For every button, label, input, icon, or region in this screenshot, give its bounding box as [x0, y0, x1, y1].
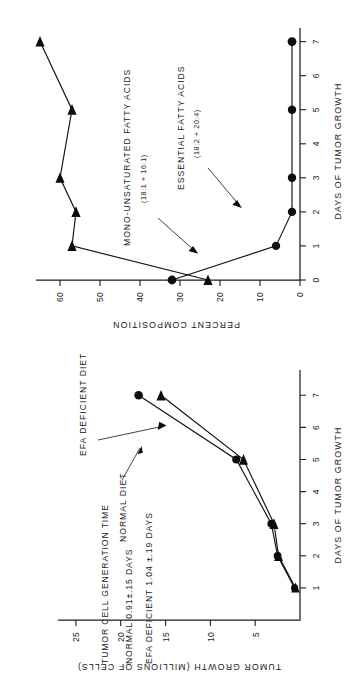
x-tick-6: 6 [311, 73, 321, 78]
y-tick-60: 60 [55, 292, 65, 302]
leader-essential [208, 168, 240, 206]
leader-arrow-normal-diet [138, 446, 143, 454]
fatty-acid-plot: 0 10 20 30 40 50 60 0 1 2 [0, 0, 364, 346]
annotation-essential: ESSENTIAL FATTY ACIDS [176, 66, 186, 190]
annotation-efa-deficient: EFA DEFICIENT DIET [78, 353, 88, 456]
annotation-normal-diet: NORMAL DIET [118, 473, 128, 542]
x-tick-2: 2 [311, 209, 321, 214]
x-tick-5: 5 [311, 457, 321, 462]
y-tick-10: 10 [255, 292, 265, 302]
leader-efa-deficient [98, 426, 164, 440]
y-tick-20: 20 [116, 632, 126, 642]
leader-arrow-efa-deficient [158, 422, 167, 430]
y-tick-0: 0 [295, 292, 305, 297]
y-tick-20: 20 [215, 292, 225, 302]
series-efa-deficient-markers [156, 390, 299, 593]
x-tick-6: 6 [311, 425, 321, 430]
note-line-efa: EFA DEFICIENT 1.04 ±.19 DAYS [144, 512, 154, 664]
x-axis-title: DAYS OF TUMOR GROWTH [333, 82, 343, 219]
tumor-growth-plot: TUMOR CELL GENERATION TIME NORMAL 0.91±.… [0, 346, 364, 692]
panel-fatty-acids: 0 10 20 30 40 50 60 0 1 2 [0, 0, 364, 346]
panel-tumor-growth: TUMOR CELL GENERATION TIME NORMAL 0.91±.… [0, 346, 364, 692]
annotation-monounsaturated: MONO-UNSATURATED FATTY ACIDS [122, 69, 132, 246]
x-tick-7: 7 [311, 39, 321, 44]
y-tick-10: 10 [206, 632, 216, 642]
x-ticks: 1 2 3 4 5 6 7 [300, 393, 321, 591]
note-title: TUMOR CELL GENERATION TIME [100, 504, 110, 664]
x-tick-4: 4 [311, 489, 321, 494]
leader-arrow-essential [232, 200, 241, 208]
x-tick-2: 2 [311, 553, 321, 558]
y-tick-5: 5 [251, 632, 261, 637]
x-tick-0: 0 [311, 277, 321, 282]
x-axis-title: DAYS OF TUMOR GROWTH [333, 426, 343, 563]
annotation-essential-sub: (18:2 + 20:4) [192, 109, 201, 158]
y-tick-25: 25 [71, 632, 81, 642]
x-tick-3: 3 [311, 521, 321, 526]
x-tick-3: 3 [311, 175, 321, 180]
leader-monounsaturated [158, 218, 196, 252]
x-tick-1: 1 [311, 585, 321, 590]
axes-lines [58, 370, 300, 620]
x-ticks: 0 1 2 3 4 5 6 7 [300, 39, 321, 282]
axes-lines [36, 28, 300, 280]
y-axis-title: TUMOR GROWTH (MILLIONS OF CELLS) [77, 662, 281, 672]
x-tick-1: 1 [311, 243, 321, 248]
y-tick-30: 30 [175, 292, 185, 302]
y-tick-50: 50 [95, 292, 105, 302]
series-normal-diet-markers [134, 391, 298, 592]
y-tick-40: 40 [135, 292, 145, 302]
x-tick-7: 7 [311, 393, 321, 398]
leader-normal-diet [122, 448, 140, 480]
figure-rotator: TUMOR CELL GENERATION TIME NORMAL 0.91±.… [0, 0, 364, 692]
x-tick-5: 5 [311, 107, 321, 112]
y-tick-15: 15 [161, 632, 171, 642]
note-line-normal: NORMAL 0.91±.15 DAYS [124, 549, 134, 664]
series-essential-markers [168, 37, 297, 284]
x-tick-4: 4 [311, 141, 321, 146]
y-axis-title: PERCENT COMPOSITION [112, 320, 240, 330]
y-ticks: 0 10 20 30 40 50 60 [55, 280, 305, 302]
annotation-monounsaturated-sub: (18:1 + 16:1) [139, 154, 148, 203]
